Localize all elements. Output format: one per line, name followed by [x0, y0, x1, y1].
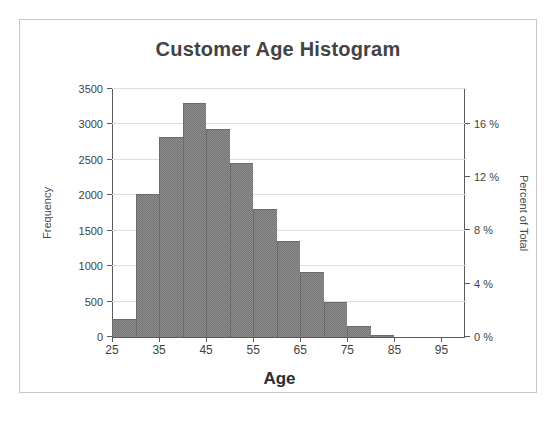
x-axis-tick-label: 35: [152, 344, 165, 356]
y-axis-left-tick-label: 1000: [79, 261, 103, 272]
y-axis-right-tick: [465, 176, 470, 177]
y-axis-right-tick-label: 8 %: [474, 225, 493, 236]
y-axis-left-tick: [107, 265, 112, 266]
y-axis-left-tick: [107, 159, 112, 160]
x-axis-tick-label: 25: [105, 344, 118, 356]
histogram-bar: [277, 241, 301, 337]
y-axis-right-title: Percent of Total: [518, 175, 530, 251]
x-axis-tick-label: 75: [341, 344, 354, 356]
y-axis-right-tick: [465, 283, 470, 284]
gridline: [112, 88, 465, 89]
y-axis-right-tick: [465, 229, 470, 230]
histogram-bar: [230, 163, 254, 337]
y-axis-left-tick-label: 3000: [79, 119, 103, 130]
y-axis-left-tick: [107, 230, 112, 231]
y-axis-left-tick-label: 3500: [79, 84, 103, 95]
x-axis-tick: [394, 337, 395, 342]
y-axis-right-tick-label: 0 %: [474, 332, 493, 343]
histogram-bar: [371, 335, 395, 337]
histogram-bar: [300, 272, 324, 337]
x-axis-tick: [253, 337, 254, 342]
y-axis-left-tick-label: 2000: [79, 190, 103, 201]
y-axis-right-tick: [465, 336, 470, 337]
x-axis-tick: [206, 337, 207, 342]
gridline: [112, 123, 465, 124]
histogram-bar: [347, 326, 371, 337]
histogram-bar: [183, 103, 207, 337]
x-axis-tick: [112, 337, 113, 342]
x-axis-tick-label: 95: [435, 344, 448, 356]
y-axis-right-tick: [465, 123, 470, 124]
histogram-bar: [324, 302, 348, 337]
y-axis-left-tick-label: 2500: [79, 154, 103, 165]
x-axis-tick: [159, 337, 160, 342]
x-axis-tick-label: 55: [247, 344, 260, 356]
y-axis-left-tick-label: 500: [85, 296, 103, 307]
x-axis-tick-label: 45: [199, 344, 212, 356]
histogram-plot-area: 0500100015002000250030003500 0 %4 %8 %12…: [112, 89, 465, 337]
x-axis-tick: [347, 337, 348, 342]
x-axis-tick-label: 85: [388, 344, 401, 356]
y-axis-right-tick-label: 4 %: [474, 278, 493, 289]
y-axis-left-title: Frequency: [41, 187, 53, 239]
y-axis-left-tick: [107, 301, 112, 302]
y-axis-left-tick: [107, 194, 112, 195]
x-axis-tick: [300, 337, 301, 342]
histogram-bar: [112, 319, 136, 337]
y-axis-left-tick-label: 0: [97, 332, 103, 343]
x-axis-title: Age: [0, 369, 559, 389]
y-axis-left-tick-label: 1500: [79, 225, 103, 236]
histogram-bar: [253, 209, 277, 337]
y-axis-right-tick-label: 12 %: [474, 172, 499, 183]
y-axis-left-tick: [107, 88, 112, 89]
x-axis-line: [112, 337, 465, 338]
histogram-bar: [136, 194, 160, 337]
chart-title: Customer Age Histogram: [20, 38, 536, 61]
histogram-bar: [206, 129, 230, 337]
y-axis-left-tick: [107, 123, 112, 124]
histogram-bar: [159, 137, 183, 337]
y-axis-right-tick-label: 16 %: [474, 118, 499, 129]
x-axis-tick: [441, 337, 442, 342]
x-axis-tick-label: 65: [294, 344, 307, 356]
